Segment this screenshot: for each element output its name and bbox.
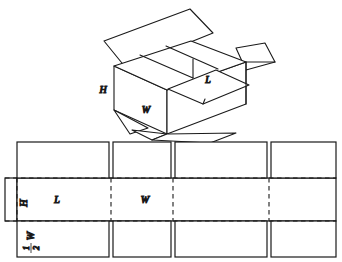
net-body-band <box>17 178 336 221</box>
net-bottom-flap-4 <box>271 221 336 257</box>
half-width-numerator: 1 <box>22 246 31 250</box>
net-top-flap-2 <box>113 142 171 178</box>
net-bottom-flap-2 <box>113 221 171 257</box>
net-top-flap-1 <box>17 142 109 178</box>
net-label-length: L <box>53 194 60 205</box>
box-3d-drawing: H W L <box>98 9 275 143</box>
net-bottom-flap-3 <box>175 221 267 257</box>
net-top-flap-3 <box>175 142 267 178</box>
net-drawing: H L W 1 2 W <box>5 142 336 257</box>
figure-container: H W L <box>0 0 342 262</box>
box-label-length: L <box>204 74 211 85</box>
half-width-denominator: 2 <box>32 246 41 250</box>
net-label-height: H <box>18 199 29 208</box>
net-glue-tab <box>5 178 17 221</box>
net-top-flap-4 <box>271 142 336 178</box>
box-label-height: H <box>98 84 107 95</box>
box-and-net-diagram: H W L <box>0 0 342 262</box>
